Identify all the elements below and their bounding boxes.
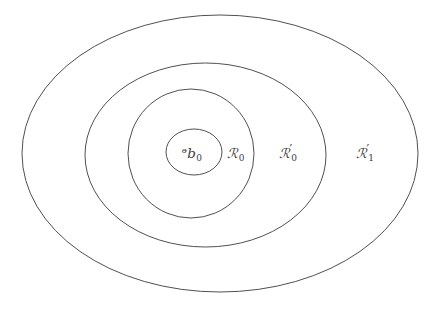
- label-r1-prime-subscript: 1: [368, 153, 374, 163]
- label-r0-prime-subscript: 0: [291, 153, 297, 163]
- label-r0-letter: ℛ: [227, 145, 238, 161]
- nested-region-figure: ᵊb0 ℛ0 ℛ′0 ℛ′1: [0, 0, 439, 310]
- label-r0-prime-letter: ℛ: [279, 145, 290, 161]
- label-r0: ℛ0: [227, 145, 244, 163]
- label-r0-prime: ℛ′0: [279, 143, 297, 163]
- label-r1-prime: ℛ′1: [356, 143, 374, 163]
- label-r1-prime-letter: ℛ: [356, 145, 367, 161]
- label-p0-letter: ᵊb: [182, 145, 196, 161]
- label-p0-subscript: 0: [196, 153, 202, 163]
- label-p0: ᵊb0: [182, 145, 203, 163]
- label-r0-subscript: 0: [239, 153, 245, 163]
